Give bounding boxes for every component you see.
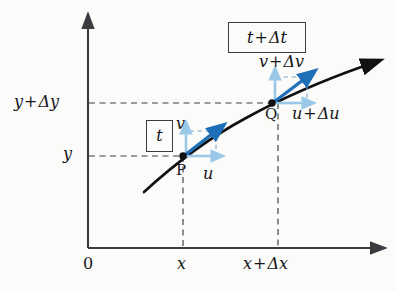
point-q-label: Q xyxy=(265,107,277,122)
point-p-group xyxy=(179,131,216,160)
time-box-t-plus-delta-t: t+Δt xyxy=(228,22,306,53)
y-axis-label-y-plus-delta-y: y+Δy xyxy=(14,94,59,110)
diagram-canvas xyxy=(0,0,396,291)
x-dx-tail: Δx xyxy=(267,254,288,273)
point-p-dot xyxy=(179,152,186,159)
x-dx-lead: x xyxy=(243,254,252,273)
y-dy-tail: Δy xyxy=(38,92,59,111)
u-du-lead: u xyxy=(292,104,302,123)
x-dx-operator: + xyxy=(252,254,267,273)
x-axis-label-x: x xyxy=(177,256,186,272)
t-dt-operator: + xyxy=(254,30,269,46)
v-dv-lead: v xyxy=(259,52,268,71)
t-dt-tail: Δt xyxy=(269,30,287,46)
time-box-t: t xyxy=(146,120,173,152)
u-du-operator: + xyxy=(302,104,317,123)
v-dv-tail: Δv xyxy=(283,52,304,71)
u-du-tail: Δu xyxy=(318,104,340,123)
y-dy-operator: + xyxy=(23,92,38,111)
tangent-vector-diagram: y+Δy y 0 x x+Δx v+Δv u+Δu v u P Q t t+Δt xyxy=(0,0,396,291)
p-tangent-vector xyxy=(185,134,212,155)
point-p-label: P xyxy=(176,163,186,178)
q-label-v-plus-delta-v: v+Δv xyxy=(259,54,304,70)
x-axis-label-x-plus-delta-x: x+Δx xyxy=(243,256,288,272)
origin-label: 0 xyxy=(83,256,93,272)
p-label-v: v xyxy=(176,116,185,132)
v-dv-operator: + xyxy=(268,52,283,71)
y-axis-label-y: y xyxy=(63,146,72,162)
axes-group xyxy=(88,27,372,248)
y-dy-lead: y xyxy=(14,92,23,111)
p-label-u: u xyxy=(203,166,213,182)
q-label-u-plus-delta-u: u+Δu xyxy=(292,106,340,122)
